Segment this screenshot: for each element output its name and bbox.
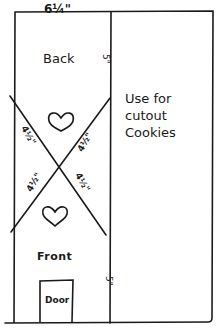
heart-icon xyxy=(49,113,74,131)
width-measurement-label: 6¼" xyxy=(44,3,71,15)
note-line-1: Use for xyxy=(125,90,176,107)
cutout-note: Use for cutout Cookies xyxy=(125,90,176,141)
front-panel-label: Front xyxy=(37,251,72,262)
side-measurement-bottom: 5" xyxy=(104,276,113,286)
note-line-3: Cookies xyxy=(125,124,176,141)
heart-icon xyxy=(43,207,68,226)
side-measurement-top: 5" xyxy=(101,54,110,64)
gingerbread-template-diagram: 6¼" Back Front Door 5" 5" 4½" 4½" 4½" 4½… xyxy=(0,0,218,328)
note-line-2: cutout xyxy=(125,107,176,124)
door-label: Door xyxy=(45,296,69,305)
back-panel-label: Back xyxy=(43,52,75,65)
